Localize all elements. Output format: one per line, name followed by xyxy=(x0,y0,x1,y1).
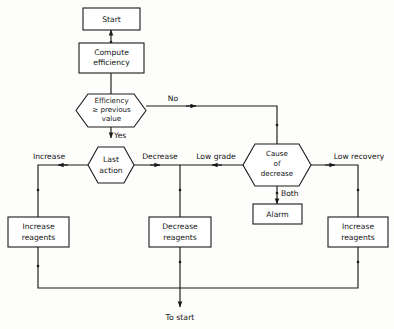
node-compute-efficiency-line1: Compute xyxy=(94,48,129,57)
junction-dot-right-lower xyxy=(357,261,360,264)
node-last-action-line1: Last xyxy=(103,155,119,164)
node-decrease-reagents-mid-line2: reagents xyxy=(163,233,197,242)
junction-dot-both xyxy=(276,192,279,195)
node-increase-reagents-left-line1: Increase xyxy=(22,222,54,231)
node-cause-of-decrease-line1: Cause xyxy=(266,149,288,158)
connector-cause-low-recovery xyxy=(311,165,358,217)
node-efficiency-check[interactable]: Efficiency ≥ previous value xyxy=(76,94,146,127)
node-increase-reagents-left-line2: reagents xyxy=(22,233,56,242)
node-increase-reagents-right[interactable]: Increase reagents xyxy=(328,217,388,247)
node-cause-of-decrease-line2: of xyxy=(274,159,281,168)
edge-label-decrease: Decrease xyxy=(142,152,178,161)
edge-label-low-grade: Low grade xyxy=(196,152,236,161)
edge-label-increase: Increase xyxy=(33,152,65,161)
node-start[interactable]: Start xyxy=(83,8,140,30)
edge-label-both: Both xyxy=(281,189,299,198)
node-start-label: Start xyxy=(102,15,121,24)
terminal-label-to-start: To start xyxy=(165,313,195,322)
node-efficiency-check-line3: value xyxy=(102,114,121,123)
node-increase-reagents-left[interactable]: Increase reagents xyxy=(8,217,69,247)
junction-dot-left-lower xyxy=(37,265,40,268)
node-compute-efficiency-line2: efficiency xyxy=(93,58,130,67)
junction-dot-no-vertical xyxy=(276,124,279,127)
node-decrease-reagents-mid-line1: Decrease xyxy=(162,222,198,231)
node-increase-reagents-right-line2: reagents xyxy=(341,233,375,242)
junction-dot-left-vertical xyxy=(37,189,40,192)
connector-right-to-bottom-rail xyxy=(180,247,358,288)
node-cause-of-decrease-line3: decrease xyxy=(261,169,293,178)
node-efficiency-check-line1: Efficiency xyxy=(94,96,128,105)
flowchart-diagram: Start Compute efficiency Efficiency ≥ pr… xyxy=(0,0,394,329)
node-last-action[interactable]: Last action xyxy=(88,147,134,183)
connector-last-action-decrease xyxy=(134,165,180,217)
connector-efficiency-no-to-cause xyxy=(146,106,277,144)
edge-label-low-recovery: Low recovery xyxy=(334,152,385,161)
junction-dot-mid-lower xyxy=(179,261,182,264)
node-efficiency-check-line2: ≥ previous xyxy=(92,105,131,114)
node-alarm[interactable]: Alarm xyxy=(253,204,302,224)
connector-left-to-bottom-rail xyxy=(38,247,180,288)
node-compute-efficiency[interactable]: Compute efficiency xyxy=(79,43,144,73)
node-last-action-line2: action xyxy=(99,166,123,175)
node-decrease-reagents-mid[interactable]: Decrease reagents xyxy=(149,217,211,247)
node-cause-of-decrease[interactable]: Cause of decrease xyxy=(243,144,311,186)
node-alarm-label: Alarm xyxy=(266,210,288,219)
node-increase-reagents-right-line1: Increase xyxy=(342,222,374,231)
edge-label-no: No xyxy=(168,94,179,103)
junction-dot-right-vertical xyxy=(357,189,360,192)
connector-last-action-increase xyxy=(38,165,88,217)
junction-dot-mid-vertical xyxy=(179,189,182,192)
edge-label-yes: Yes xyxy=(113,131,126,140)
